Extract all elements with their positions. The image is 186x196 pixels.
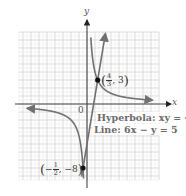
point-2-x-denominator: 2: [54, 170, 58, 177]
point-label-second: (−12, −8): [40, 162, 83, 177]
x-axis-label: x: [172, 97, 177, 107]
origin-label: 0: [78, 105, 84, 115]
point-label-first: (43, 3): [101, 73, 129, 88]
hyperbola-label: Hyperbola: xy = 4: [96, 112, 186, 123]
y-axis-label: y: [84, 6, 89, 16]
point-2-y: −8: [65, 164, 78, 174]
graph-canvas: [0, 0, 186, 196]
point-2-x-sign: −: [45, 164, 53, 174]
grid-lines: [19, 32, 159, 180]
line-6x-minus-y-eq-5: [82, 34, 106, 177]
intersection-point: [95, 77, 100, 82]
point-1-x-denominator: 3: [107, 81, 111, 88]
curves: [27, 34, 152, 179]
line-label: Line: 6x − y = 5: [93, 124, 179, 135]
